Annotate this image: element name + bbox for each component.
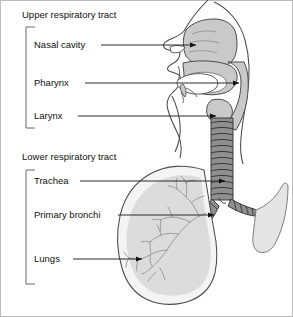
group-title-upper: Upper respiratory tract xyxy=(22,9,117,20)
label-text-lungs: Lungs xyxy=(34,253,60,264)
label-text-trachea: Trachea xyxy=(34,175,69,186)
respiratory-system-diagram: Upper respiratory tract Nasal cavity Pha… xyxy=(0,0,293,317)
group-title-lower: Lower respiratory tract xyxy=(22,151,117,162)
label-text-nasal-cavity: Nasal cavity xyxy=(34,39,85,50)
diagram-canvas: Upper respiratory tract Nasal cavity Pha… xyxy=(0,0,293,317)
nasal-cavity-chamber xyxy=(183,19,237,67)
label-text-primary-bronchi: Primary bronchi xyxy=(34,209,101,220)
trachea-rings xyxy=(211,118,233,200)
label-text-larynx: Larynx xyxy=(34,110,63,121)
label-text-pharynx: Pharynx xyxy=(34,77,69,88)
